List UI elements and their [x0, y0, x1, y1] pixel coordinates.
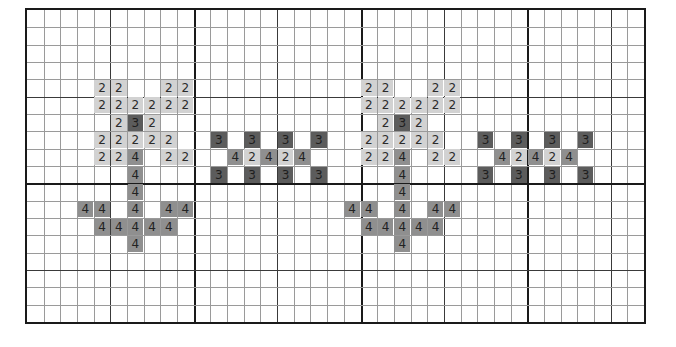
flower-2-stitch-4: 4 — [378, 219, 394, 235]
cross-band-1-stitch-3: 3 — [278, 167, 294, 183]
flower-1-stitch-3: 3 — [128, 115, 144, 131]
cross-band-2-stitch-3: 3 — [478, 132, 494, 148]
flower-2-stitch-2: 2 — [428, 80, 444, 96]
flower-1-stitch-2: 2 — [161, 149, 177, 165]
flower-2-stitch-2: 2 — [428, 132, 444, 148]
flower-1-stitch-4: 4 — [128, 184, 144, 200]
grid-row-line — [27, 62, 644, 63]
flower-2-stitch-2: 2 — [444, 149, 460, 165]
cross-band-2-stitch-3: 3 — [578, 167, 594, 183]
cross-band-1-stitch-3: 3 — [211, 132, 227, 148]
cross-band-2-stitch-3: 3 — [511, 167, 527, 183]
cross-band-2-stitch-4: 4 — [528, 149, 544, 165]
cross-band-1-stitch-3: 3 — [211, 167, 227, 183]
flower-2-stitch-2: 2 — [361, 149, 377, 165]
flower-2-stitch-2: 2 — [361, 80, 377, 96]
flower-2-stitch-2: 2 — [411, 115, 427, 131]
flower-1-stitch-4: 4 — [144, 219, 160, 235]
flower-2-stitch-2: 2 — [428, 97, 444, 113]
flower-2-stitch-4: 4 — [428, 201, 444, 217]
cross-band-2-stitch-3: 3 — [478, 167, 494, 183]
cross-band-1-stitch-3: 3 — [311, 167, 327, 183]
cross-band-1-stitch-3: 3 — [278, 132, 294, 148]
flower-2-stitch-2: 2 — [428, 149, 444, 165]
cross-band-2-stitch-3: 3 — [511, 132, 527, 148]
flower-2-stitch-2: 2 — [444, 97, 460, 113]
flower-1-stitch-2: 2 — [144, 97, 160, 113]
grid-row-line — [27, 201, 644, 202]
flower-1-stitch-2: 2 — [178, 97, 194, 113]
grid-row-line — [27, 235, 644, 236]
grid-row-line — [27, 305, 644, 306]
flower-2-stitch-4: 4 — [428, 219, 444, 235]
flower-2-stitch-2: 2 — [411, 132, 427, 148]
cross-band-1-stitch-2: 2 — [244, 149, 260, 165]
flower-1-stitch-4: 4 — [178, 201, 194, 217]
flower-1-stitch-4: 4 — [161, 201, 177, 217]
flower-1-stitch-2: 2 — [128, 132, 144, 148]
flower-2-stitch-2: 2 — [378, 80, 394, 96]
flower-2-stitch-2: 2 — [444, 80, 460, 96]
flower-1-stitch-4: 4 — [161, 219, 177, 235]
cross-band-2-stitch-4: 4 — [561, 149, 577, 165]
cross-band-1-stitch-3: 3 — [311, 132, 327, 148]
flower-1-stitch-2: 2 — [161, 80, 177, 96]
cross-band-1-stitch-2: 2 — [278, 149, 294, 165]
flower-1-stitch-2: 2 — [94, 132, 110, 148]
grid-row-line — [27, 287, 644, 288]
flower-2-stitch-3: 3 — [394, 115, 410, 131]
flower-2-stitch-4: 4 — [444, 201, 460, 217]
flower-2-stitch-2: 2 — [378, 97, 394, 113]
flower-1-stitch-2: 2 — [144, 115, 160, 131]
flower-2-stitch-2: 2 — [394, 97, 410, 113]
cross-band-2-stitch-3: 3 — [544, 132, 560, 148]
flower-2-stitch-2: 2 — [361, 132, 377, 148]
flower-1-stitch-2: 2 — [111, 97, 127, 113]
flower-2-stitch-4: 4 — [394, 236, 410, 252]
flower-1-stitch-2: 2 — [94, 149, 110, 165]
flower-1-stitch-4: 4 — [78, 201, 94, 217]
cross-band-1-stitch-3: 3 — [244, 167, 260, 183]
flower-1-stitch-4: 4 — [128, 236, 144, 252]
flower-1-stitch-4: 4 — [94, 201, 110, 217]
flower-1-stitch-2: 2 — [178, 80, 194, 96]
flower-2-stitch-4: 4 — [411, 219, 427, 235]
flower-2-stitch-2: 2 — [394, 132, 410, 148]
flower-2-stitch-4: 4 — [361, 201, 377, 217]
cross-band-2-stitch-3: 3 — [578, 132, 594, 148]
cross-band-2-stitch-2: 2 — [544, 149, 560, 165]
flower-1-stitch-2: 2 — [178, 149, 194, 165]
flower-1-stitch-2: 2 — [144, 132, 160, 148]
grid-row-line — [27, 183, 644, 185]
cross-band-2-stitch-4: 4 — [494, 149, 510, 165]
cross-band-2-stitch-3: 3 — [544, 167, 560, 183]
flower-1-stitch-4: 4 — [111, 219, 127, 235]
flower-1-stitch-2: 2 — [94, 97, 110, 113]
flower-1-stitch-2: 2 — [111, 80, 127, 96]
cross-stitch-chart: 2222222222232222222242244444444444443333… — [25, 8, 646, 324]
flower-2-stitch-4: 4 — [394, 167, 410, 183]
cross-band-1-stitch-3: 3 — [244, 132, 260, 148]
cross-band-1-stitch-4: 4 — [261, 149, 277, 165]
flower-1-stitch-2: 2 — [111, 149, 127, 165]
flower-1-stitch-4: 4 — [128, 219, 144, 235]
flower-1-stitch-2: 2 — [161, 97, 177, 113]
flower-1-stitch-2: 2 — [161, 132, 177, 148]
flower-1-stitch-2: 2 — [111, 132, 127, 148]
grid-row-line — [27, 270, 644, 271]
flower-1-stitch-2: 2 — [111, 115, 127, 131]
flower-2-stitch-2: 2 — [378, 132, 394, 148]
flower-2-stitch-4: 4 — [394, 149, 410, 165]
flower-2-stitch-2: 2 — [361, 97, 377, 113]
flower-2-stitch-2: 2 — [411, 97, 427, 113]
flower-2-stitch-4: 4 — [394, 184, 410, 200]
cross-band-2-stitch-2: 2 — [511, 149, 527, 165]
flower-2-stitch-4: 4 — [344, 201, 360, 217]
flower-1-stitch-2: 2 — [94, 80, 110, 96]
flower-1-stitch-4: 4 — [128, 149, 144, 165]
flower-1-stitch-4: 4 — [128, 167, 144, 183]
grid-row-line — [27, 253, 644, 254]
flower-2-stitch-4: 4 — [361, 219, 377, 235]
flower-1-stitch-2: 2 — [128, 97, 144, 113]
grid-row-line — [27, 27, 644, 28]
